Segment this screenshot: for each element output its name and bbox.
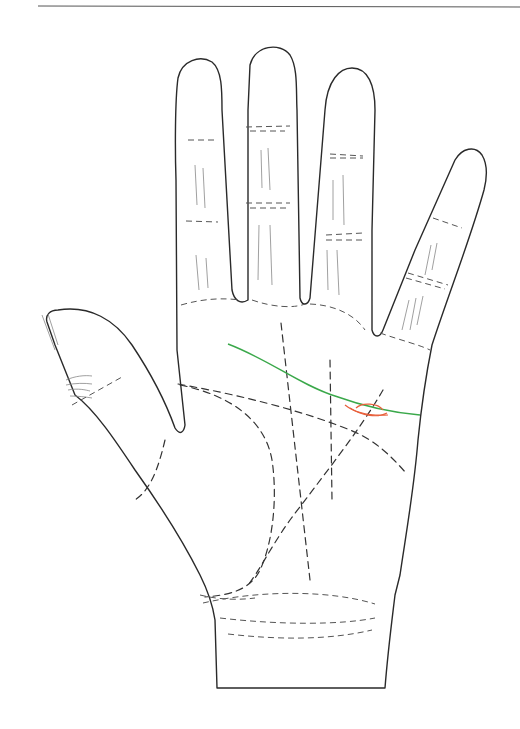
thumb-creases bbox=[66, 376, 92, 398]
life-line bbox=[180, 385, 274, 597]
top-rule bbox=[38, 6, 520, 7]
palm-diagram bbox=[0, 0, 520, 729]
head-line bbox=[178, 384, 406, 473]
thumb-joint bbox=[72, 377, 122, 405]
hand-outline bbox=[47, 47, 487, 688]
heart-line-highlight bbox=[228, 344, 420, 415]
fate-line bbox=[281, 323, 310, 580]
finger-creases bbox=[195, 148, 437, 330]
sun-line bbox=[330, 360, 332, 500]
wrist-lines bbox=[200, 593, 375, 638]
health-line bbox=[248, 390, 383, 585]
